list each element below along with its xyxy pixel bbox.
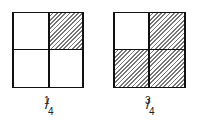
denominator: 4	[48, 106, 54, 117]
border-left	[113, 12, 115, 88]
divider-vertical	[148, 12, 150, 88]
border-right	[184, 12, 186, 88]
cell-bottom-left-shaded	[113, 50, 149, 88]
cell-bottom-right	[49, 50, 84, 88]
cell-top-left	[12, 12, 49, 50]
fraction-label-one-quarter: 1 / 4	[42, 95, 58, 119]
fraction-label-three-quarters: 3 / 4	[143, 95, 159, 119]
denominator: 4	[149, 106, 155, 117]
cell-top-left	[113, 12, 149, 50]
cell-top-right-shaded	[49, 12, 84, 50]
fraction-grid-one-quarter	[12, 12, 84, 88]
cell-bottom-left	[12, 50, 49, 88]
border-right	[82, 12, 84, 88]
cell-bottom-right-shaded	[149, 50, 186, 88]
divider-horizontal	[113, 49, 186, 50]
cell-top-right-shaded	[149, 12, 186, 50]
border-left	[12, 12, 14, 88]
fraction-grid-three-quarters	[113, 12, 186, 88]
divider-vertical	[48, 12, 50, 88]
divider-horizontal	[12, 49, 84, 50]
